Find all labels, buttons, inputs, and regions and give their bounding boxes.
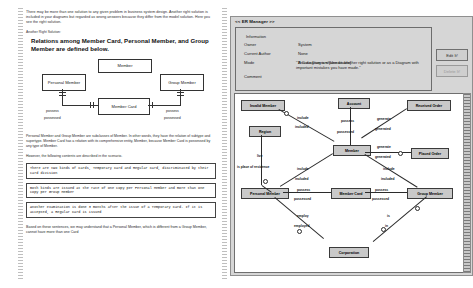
canvas-label-possessed-2: possessed — [294, 197, 311, 201]
scenario-item-3: Another examination is done 3 months aft… — [26, 202, 216, 218]
canvas-entity-placed-order[interactable]: Placed Order — [411, 148, 449, 159]
canvas-line-region — [261, 135, 262, 185]
doc-entity-personal-member: Personal Member — [42, 74, 86, 91]
canvas-label-possess-1: possess — [341, 119, 354, 123]
canvas-label-include-2: include — [297, 167, 309, 171]
canvas-line-placed-order — [365, 152, 411, 153]
document-body: There may be more than one solution to a… — [26, 10, 216, 235]
canvas-optional-marker-6 — [415, 206, 420, 211]
field-value-owner: System — [298, 42, 312, 47]
doc-crow-group-b — [177, 95, 184, 96]
canvas-line-group-corporation — [373, 196, 427, 242]
field-value-current-author: None — [298, 51, 308, 56]
doc-crow-personal-b — [59, 95, 66, 96]
er-manager-window: << ER Manager >> Information Owner Syste… — [230, 16, 473, 276]
canvas-label-possessed-1: possessed — [337, 130, 354, 134]
doc-label-possess-right: possess — [166, 109, 179, 113]
canvas-optional-marker-3 — [398, 151, 403, 156]
canvas-entity-member-card[interactable]: Member Card — [331, 188, 371, 199]
canvas-label-possess-2: possess — [297, 188, 310, 192]
canvas-label-employed: employed — [294, 224, 309, 228]
intro-paragraph: There may be more than one solution to a… — [26, 10, 216, 25]
however-paragraph: However, the following contents are desc… — [26, 154, 216, 159]
canvas-entity-account[interactable]: Account — [338, 98, 370, 109]
canvas-label-place-of-residence: is place of residence — [237, 165, 269, 169]
field-label-owner: Owner — [244, 42, 256, 47]
field-label-current-author: Current Author — [244, 51, 271, 56]
doc-entity-member-card: Member Card — [98, 98, 150, 115]
canvas-line-personal-card — [283, 192, 331, 193]
doc-card-left-tick-a — [90, 102, 91, 108]
page-right-margin-rule — [222, 8, 227, 280]
canvas-label-include-3: include — [383, 167, 395, 171]
canvas-label-generate-1: generate — [377, 117, 391, 121]
scenario-item-1: There are two kinds of Cards, Temporary … — [26, 163, 216, 179]
document-heading: Relations among Member Card, Personal Me… — [31, 37, 216, 53]
scenario-item-2: Both kinds are issued at the rate of one… — [26, 183, 216, 199]
scenario-text-1: There are two kinds of Cards, Temporary … — [30, 166, 212, 176]
doc-crow-group-a — [177, 92, 184, 93]
canvas-entity-received-order[interactable]: Received Order — [407, 100, 451, 111]
doc-crow-personal-a — [59, 92, 66, 93]
canvas-label-in: in — [385, 224, 388, 228]
canvas-label-employ: employ — [297, 214, 309, 218]
window-title: << ER Manager >> — [231, 17, 472, 25]
canvas-entity-personal-member[interactable]: Personal Member — [241, 188, 289, 199]
canvas-optional-marker-1 — [284, 111, 289, 116]
doc-line-group-card — [148, 105, 180, 106]
canvas-entity-corporation[interactable]: Corporation — [329, 247, 369, 258]
canvas-line-received-order — [361, 108, 407, 138]
information-legend: Information — [244, 34, 268, 39]
information-group: Information Owner System Current Author … — [235, 27, 432, 91]
canvas-line-account — [350, 107, 351, 145]
field-value-comment: "This diagram is shown as another right … — [296, 60, 424, 71]
canvas-vertical-scrollbar[interactable] — [463, 93, 471, 273]
scenario-text-3: Another examination is done 3 months aft… — [30, 205, 212, 215]
doc-label-possessed-left: possessed — [44, 116, 61, 120]
canvas-label-generated-1: generated — [375, 127, 391, 131]
canvas-label-include-1: include — [297, 116, 309, 120]
doc-entity-group-member: Group Member — [160, 74, 204, 91]
doc-er-diagram: Member Personal Member Group Member Memb… — [26, 57, 216, 129]
diagram-canvas[interactable]: Invalid Member Account Received Order Re… — [234, 93, 464, 273]
canvas-label-generated-2: generated — [375, 155, 391, 159]
canvas-label-generate-2: generate — [377, 145, 391, 149]
solution-label: Another Right Solution: — [26, 30, 216, 34]
canvas-optional-marker-2 — [263, 179, 268, 184]
closing-paragraph: Based on these sentences, we may underst… — [26, 225, 216, 235]
field-label-comment: Comment — [244, 74, 262, 79]
doc-label-possessed-right: possessed — [164, 116, 181, 120]
field-label-mode: Mode — [244, 60, 254, 65]
delete-it-button[interactable]: Delete It! — [436, 65, 468, 77]
canvas-label-possess-3: possess — [375, 188, 388, 192]
canvas-label-included-3: included — [381, 177, 395, 181]
canvas-label-possessed-3: possessed — [372, 197, 389, 201]
doc-card-right-tick — [152, 102, 153, 108]
canvas-label-is: is — [387, 214, 390, 218]
canvas-label-included-2: included — [295, 177, 309, 181]
canvas-line-card-group — [365, 192, 407, 193]
doc-label-possess-left: possess — [46, 109, 59, 113]
scenario-text-2: Both kinds are issued at the rate of one… — [30, 186, 212, 196]
canvas-optional-marker-4 — [297, 229, 302, 234]
explanation-paragraph: Personal Member and Group Member are sub… — [26, 134, 216, 149]
doc-entity-member: Member — [98, 59, 152, 73]
document-pane: There may be more than one solution to a… — [0, 0, 228, 288]
page-left-margin-rule — [18, 8, 23, 280]
canvas-label-included-1: included — [295, 125, 309, 129]
canvas-label-live: live — [257, 154, 263, 158]
doc-card-left-tick-b — [93, 102, 94, 108]
canvas-entity-group-member[interactable]: Group Member — [407, 188, 453, 199]
edit-it-button[interactable]: Edit It! — [436, 49, 468, 61]
canvas-entity-region[interactable]: Region — [249, 126, 281, 137]
